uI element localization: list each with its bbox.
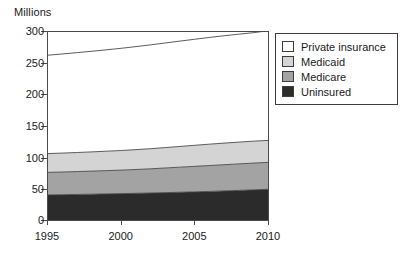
x-tick-mark <box>121 221 122 225</box>
y-tick-label: 250 <box>8 58 44 69</box>
y-tick-label: 300 <box>8 26 44 37</box>
y-tick-label: 0 <box>8 215 44 226</box>
y-axis-title: Millions <box>14 6 51 19</box>
x-tick-mark <box>47 221 48 225</box>
area-private-insurance <box>48 32 268 154</box>
y-tick-label: 100 <box>8 153 44 164</box>
plot-area <box>47 31 269 221</box>
x-tick-mark <box>194 221 195 225</box>
y-axis-ticks: 300 250 200 150 100 50 0 <box>0 31 44 221</box>
legend-label: Medicaid <box>301 56 345 68</box>
x-tick-label: 2010 <box>238 230 298 242</box>
legend-label: Medicare <box>301 71 346 83</box>
chart-legend: Private insurance Medicaid Medicare Unin… <box>275 33 398 105</box>
x-tick-label: 2005 <box>164 230 224 242</box>
legend-label: Private insurance <box>301 41 386 53</box>
legend-item-medicaid: Medicaid <box>282 54 391 69</box>
x-tick-label: 2000 <box>91 230 151 242</box>
x-tick-label: 1995 <box>17 230 77 242</box>
legend-label: Uninsured <box>301 86 351 98</box>
legend-swatch-medicaid <box>282 56 294 67</box>
y-tick-label: 150 <box>8 121 44 132</box>
y-tick-label: 200 <box>8 89 44 100</box>
chart-figure: Millions 300 250 200 150 100 50 0 1995 2… <box>0 0 407 257</box>
x-tick-mark <box>268 221 269 225</box>
stacked-area-plot <box>48 32 268 220</box>
x-axis-ticks: 1995 2000 2005 2010 <box>47 221 269 251</box>
legend-item-private-insurance: Private insurance <box>282 39 391 54</box>
legend-swatch-private-insurance <box>282 41 294 52</box>
legend-swatch-medicare <box>282 71 294 82</box>
y-tick-label: 50 <box>8 184 44 195</box>
legend-item-medicare: Medicare <box>282 69 391 84</box>
legend-swatch-uninsured <box>282 86 294 97</box>
legend-item-uninsured: Uninsured <box>282 84 391 99</box>
